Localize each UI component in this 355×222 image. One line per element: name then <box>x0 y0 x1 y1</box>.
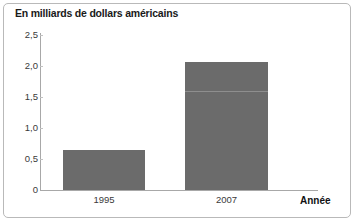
y-tick-label: 1,0 <box>4 122 38 133</box>
y-tick-label: 0 <box>4 184 38 195</box>
chart-figure: En milliards de dollars américains 2,5 2… <box>0 0 355 222</box>
y-tick-mark <box>40 66 43 67</box>
hairline-gridline <box>185 91 268 92</box>
bar-2007 <box>185 62 268 190</box>
x-axis-line <box>40 190 318 191</box>
y-tick-mark <box>40 128 43 129</box>
x-tick-label-2007: 2007 <box>185 194 268 205</box>
y-axis-line <box>40 33 41 191</box>
y-tick-label: 1,5 <box>4 91 38 102</box>
y-tick-mark <box>40 97 43 98</box>
y-tick-1-0: 1,0 <box>0 122 38 134</box>
y-tick-2-0: 2,0 <box>0 60 38 72</box>
y-tick-mark <box>40 159 43 160</box>
y-tick-label: 2,5 <box>4 29 38 40</box>
x-axis-title: Année <box>300 195 331 206</box>
y-tick-0: 0 <box>0 184 38 196</box>
plot-area: 2,5 2,0 1,5 1,0 0,5 0 1995 2007 Année <box>0 0 355 222</box>
y-tick-2-5: 2,5 <box>0 29 38 41</box>
y-tick-1-5: 1,5 <box>0 91 38 103</box>
bar-1995 <box>63 150 145 190</box>
x-tick-label-1995: 1995 <box>63 194 145 205</box>
y-tick-label: 0,5 <box>4 153 38 164</box>
y-tick-0-5: 0,5 <box>0 153 38 165</box>
y-tick-mark <box>40 35 43 36</box>
y-tick-label: 2,0 <box>4 60 38 71</box>
